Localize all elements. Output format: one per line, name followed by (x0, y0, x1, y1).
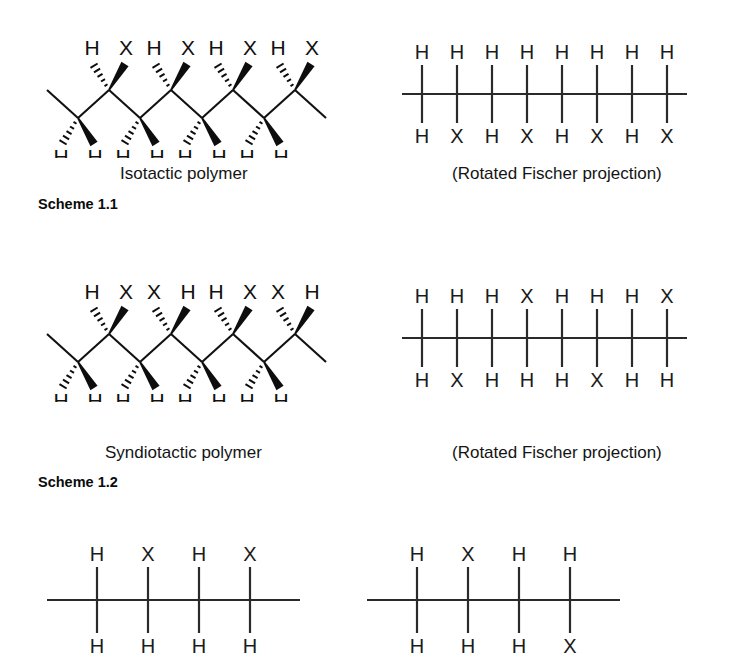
wedge-bond (201, 118, 221, 147)
hashed-bond (121, 122, 138, 145)
syndiotactic-fischer-projection: HHHXHHXHHHHXHHXH (400, 282, 720, 392)
atom-label-H: H (87, 389, 102, 402)
wedge-bond (77, 362, 97, 391)
fischer-top-label-H: H (590, 41, 604, 63)
fischer-top-label-H: H (625, 285, 639, 307)
wedge-bond (139, 118, 159, 147)
backbone-bond (140, 90, 171, 118)
fischer-top-label-H: H (512, 543, 526, 565)
fischer-top-label-X: X (660, 285, 673, 307)
fischer-bottom-label-H: H (90, 635, 104, 657)
wedge-bond (294, 62, 314, 91)
backbone-bond (171, 90, 202, 118)
atom-label-H: H (208, 280, 223, 303)
atom-label-H: H (87, 145, 102, 158)
fischer-top-label-H: H (415, 41, 429, 63)
fischer-bottom-label-X: X (660, 125, 673, 147)
fischer-bottom-label-H: H (520, 369, 534, 391)
fischer-bottom-label-H: H (625, 369, 639, 391)
atom-label-H: H (273, 389, 288, 402)
atom-label-H: H (304, 280, 319, 303)
fischer-bottom-label-X: X (590, 125, 603, 147)
backbone-bond (264, 334, 295, 362)
isotactic-zigzag-structure: HHHXHHHXHHHXHHHX (30, 28, 370, 158)
atom-label-H: H (53, 389, 68, 402)
atom-label-H: H (146, 36, 161, 59)
fischer-bottom-label-H: H (555, 125, 569, 147)
hashed-bond (276, 64, 293, 87)
atom-label-H: H (211, 389, 226, 402)
atom-label-H: H (208, 36, 223, 59)
fischer-top-label-H: H (192, 543, 206, 565)
fischer-bottom-label-X: X (563, 635, 576, 657)
fischer-bottom-label-H: H (461, 635, 475, 657)
fischer-top-label-H: H (660, 41, 674, 63)
wedge-bond (263, 118, 283, 147)
atom-label-H: H (177, 145, 192, 158)
backbone-bonds (47, 334, 326, 362)
hashed-bond (245, 122, 262, 145)
atom-label-H: H (239, 389, 254, 402)
atom-label-H: H (149, 389, 164, 402)
backbone-bond (233, 334, 264, 362)
syndiotactic-caption: Syndiotactic polymer (105, 443, 262, 463)
hashed-bond (152, 308, 169, 331)
fischer-top-label-H: H (563, 543, 577, 565)
atom-label-X: X (243, 280, 257, 303)
hashed-bond (90, 64, 107, 87)
hashed-bond (59, 366, 76, 389)
fischer-bottom-label-H: H (192, 635, 206, 657)
atom-label-H: H (53, 145, 68, 158)
wedge-bond (139, 362, 159, 391)
fischer-top-label-H: H (485, 41, 499, 63)
wedge-bond (108, 62, 128, 91)
fischer-top-label-X: X (243, 543, 256, 565)
fischer-top-label-H: H (485, 285, 499, 307)
backbone-bond (109, 334, 140, 362)
fischer-top-label-H: H (555, 285, 569, 307)
fischer-top-label-H: H (555, 41, 569, 63)
hashed-bond (121, 366, 138, 389)
fischer-bottom-label-H: H (555, 369, 569, 391)
backbone-bonds (47, 90, 326, 118)
atom-label-H: H (177, 389, 192, 402)
chemistry-figure: HHHXHHHXHHHXHHHX HHHXHHHXHHHXHHHX Isotac… (0, 0, 747, 670)
fischer-bottom-label-X: X (520, 125, 533, 147)
fischer-top-label-H: H (450, 41, 464, 63)
wedge-bond (108, 306, 128, 335)
scheme-label-1-2: Scheme 1.2 (38, 474, 118, 490)
backbone-bond (109, 90, 140, 118)
isotactic-fischer-projection: HHHXHHHXHHHXHHHX (400, 38, 720, 148)
fischer-bottom-label-H: H (415, 125, 429, 147)
hashed-bond (152, 64, 169, 87)
fischer-bottom-label-H: H (410, 635, 424, 657)
hashed-bond (214, 64, 231, 87)
backbone-bond (47, 90, 78, 118)
syndiotactic-zigzag-structure: HHHXHHXHHHHXHHXH (30, 272, 370, 402)
wedge-bond (170, 62, 190, 91)
wedge-bond (232, 62, 252, 91)
backbone-bond (47, 334, 78, 362)
atom-label-X: X (305, 36, 319, 59)
fischer-top-label-H: H (410, 543, 424, 565)
fischer-bottom-label-H: H (625, 125, 639, 147)
atom-label-H: H (84, 280, 99, 303)
wedge-bond (170, 306, 190, 335)
backbone-bond (233, 90, 264, 118)
wedge-bond (294, 306, 314, 335)
atom-label-H: H (180, 280, 195, 303)
atom-label-H: H (239, 145, 254, 158)
fischer-bottom-label-H: H (415, 369, 429, 391)
fischer-bottom-label-H: H (243, 635, 257, 657)
backbone-bond (202, 334, 233, 362)
isotactic-projection-caption: (Rotated Fischer projection) (452, 164, 662, 184)
bottom-right-fischer-projection: HHXHHHHX (360, 542, 635, 657)
backbone-bond (295, 334, 326, 362)
hashed-bond (276, 308, 293, 331)
fischer-top-label-X: X (461, 543, 474, 565)
atom-label-X: X (147, 280, 161, 303)
syndiotactic-projection-caption: (Rotated Fischer projection) (452, 443, 662, 463)
hashed-bond (245, 366, 262, 389)
fischer-bottom-label-X: X (450, 369, 463, 391)
atom-label-X: X (119, 280, 133, 303)
